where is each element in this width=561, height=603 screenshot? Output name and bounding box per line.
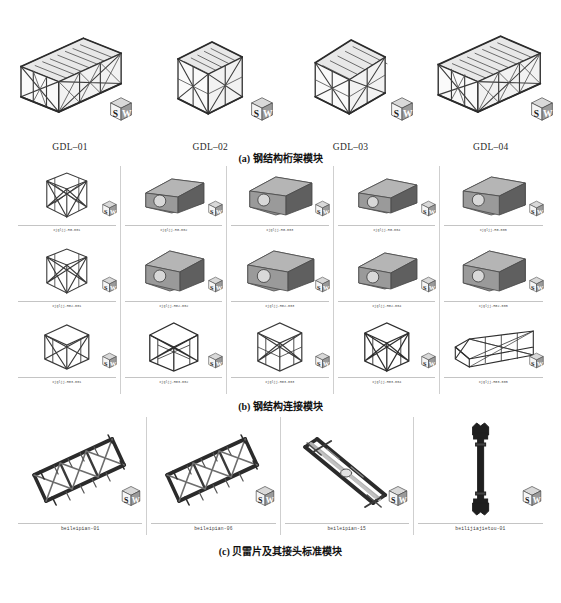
svg-text:W: W (216, 284, 223, 291)
svg-text:W: W (110, 208, 117, 215)
solidworks-cube-logo: S W (207, 352, 224, 369)
svg-text:W: W (262, 109, 272, 119)
module-card-gdl-03[interactable]: S W GDL–03 (281, 18, 421, 133)
section-c-bailey-modules: S W beileipian-01 (0, 417, 561, 567)
svg-text:W: W (323, 208, 330, 215)
module-label: GDL–03 (281, 142, 421, 152)
module-card-gdl-01[interactable]: S W GDL–01 (0, 18, 140, 133)
svg-text:W: W (403, 109, 413, 119)
module-label: xjgljj-HG3-003 (231, 380, 328, 384)
module-label: xjgljj-HG-002 (125, 228, 222, 232)
module-card[interactable]: S W xjgljj-HG-002 (121, 166, 228, 242)
solidworks-cube-logo: S W (249, 96, 275, 122)
solidworks-cube-logo: S W (521, 485, 543, 507)
divider (231, 377, 329, 378)
svg-text:W: W (216, 360, 223, 367)
divider (285, 523, 409, 524)
module-label: xjgljj-HG3-004 (338, 380, 435, 384)
module-label: xjgljj-HG-004 (338, 228, 435, 232)
module-card[interactable]: S W beileipian-06 (147, 417, 280, 535)
module-card-gdl-04[interactable]: S W GDL–04 (421, 18, 561, 133)
module-card[interactable]: S W beileipian-15 (281, 417, 414, 535)
divider (18, 377, 116, 378)
solidworks-cube-logo: S W (529, 96, 555, 122)
divider (444, 377, 543, 378)
module-label: xjgljj-HG2-004 (338, 304, 435, 308)
divider (231, 225, 329, 226)
figure-page: S W GDL–01 (0, 0, 561, 603)
svg-text:W: W (216, 208, 223, 215)
svg-text:S: S (531, 208, 535, 215)
section-b-grid: S W xjgljj-HG-001 (0, 166, 561, 394)
divider (444, 225, 543, 226)
module-label: xjgljj-HG-001 (18, 228, 115, 232)
module-card[interactable]: S W xjgljj-HG3-004 (334, 318, 441, 394)
solidworks-cube-logo: S W (420, 352, 437, 369)
module-label: xjgljj-HG3-002 (125, 380, 222, 384)
section-b-caption: (b) 钢结构连接模块 (0, 398, 561, 413)
svg-text:W: W (543, 109, 553, 119)
svg-text:W: W (537, 284, 544, 291)
svg-text:S: S (393, 109, 398, 119)
svg-text:W: W (398, 496, 406, 505)
module-card-gdl-02[interactable]: S W GDL–02 (140, 18, 280, 133)
svg-text:S: S (253, 109, 258, 119)
module-card[interactable]: S W beileipian-01 (14, 417, 147, 535)
solidworks-cube-logo: S W (108, 96, 134, 122)
divider (338, 301, 436, 302)
module-label: xjgljj-HG-005 (445, 228, 543, 232)
module-card[interactable]: S W xjgljj-HG-001 (14, 166, 121, 242)
svg-text:W: W (429, 360, 436, 367)
svg-text:W: W (429, 208, 436, 215)
svg-text:S: S (257, 496, 262, 505)
divider (338, 225, 436, 226)
divider (18, 301, 116, 302)
module-card[interactable]: S W xjgljj-HG2-004 (334, 242, 441, 318)
solidworks-cube-logo: S W (528, 276, 545, 293)
module-card[interactable]: S W xjgljj-HG3-005 (440, 318, 547, 394)
solidworks-cube-logo: S W (207, 276, 224, 293)
module-card[interactable]: S W beilijiajietou-01 (414, 417, 547, 535)
module-label: GDL–01 (0, 142, 140, 152)
svg-text:S: S (317, 208, 321, 215)
module-card[interactable]: S W xjgljj-HG3-002 (121, 318, 228, 394)
solidworks-cube-logo: S W (120, 485, 142, 507)
module-card[interactable]: S W xjgljj-HG2-005 (440, 242, 547, 318)
solidworks-cube-logo: S W (314, 352, 331, 369)
module-label: xjgljj-HG2-001 (18, 304, 115, 308)
svg-text:S: S (104, 284, 108, 291)
module-label: beileipian-06 (147, 526, 279, 531)
divider (125, 301, 223, 302)
divider (125, 377, 223, 378)
module-card[interactable]: S W xjgljj-HG3-003 (227, 318, 334, 394)
svg-text:S: S (104, 360, 108, 367)
module-card[interactable]: S W xjgljj-HG-004 (334, 166, 441, 242)
module-card[interactable]: S W xjgljj-HG3-001 (14, 318, 121, 394)
section-c-caption: (c) 贝雷片及其接头标准模块 (0, 543, 561, 558)
module-label: xjgljj-HG-003 (231, 228, 328, 232)
svg-text:S: S (531, 284, 535, 291)
module-card[interactable]: S W xjgljj-HG2-001 (14, 242, 121, 318)
module-label: beileipian-15 (281, 526, 413, 531)
section-b-connection-modules: S W xjgljj-HG-001 (0, 166, 561, 411)
svg-text:S: S (531, 360, 535, 367)
svg-text:S: S (423, 284, 427, 291)
solidworks-cube-logo: S W (387, 485, 409, 507)
svg-text:S: S (525, 496, 530, 505)
divider (418, 523, 543, 524)
module-label: xjgljj-HG2-002 (125, 304, 222, 308)
module-card[interactable]: S W xjgljj-HG2-003 (227, 242, 334, 318)
divider (338, 377, 436, 378)
divider (231, 301, 329, 302)
module-label: GDL–04 (421, 142, 561, 152)
svg-text:S: S (317, 284, 321, 291)
svg-text:S: S (391, 496, 396, 505)
svg-text:W: W (323, 284, 330, 291)
module-label: xjgljj-HG3-001 (18, 380, 115, 384)
solidworks-cube-logo: S W (420, 276, 437, 293)
svg-text:S: S (210, 208, 214, 215)
module-card[interactable]: S W xjgljj-HG-003 (227, 166, 334, 242)
module-card[interactable]: S W xjgljj-HG-005 (440, 166, 547, 242)
module-label: xjgljj-HG3-005 (445, 380, 543, 384)
module-card[interactable]: S W xjgljj-HG2-002 (121, 242, 228, 318)
